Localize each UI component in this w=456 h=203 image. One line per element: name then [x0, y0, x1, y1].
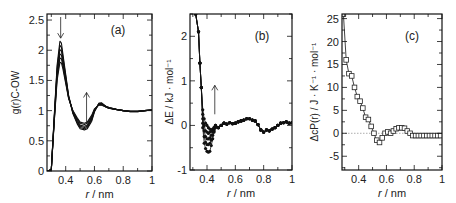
data-line [47, 54, 152, 171]
data-point [201, 126, 204, 129]
data-point [366, 117, 371, 122]
y-tick-label: 25 [327, 13, 339, 25]
x-tick-label: 1 [149, 174, 155, 186]
y-tick-label: 2.5 [29, 14, 44, 26]
plot-area [341, 12, 443, 145]
y-tick-label: -5 [329, 150, 339, 162]
data-point [214, 126, 217, 129]
data-point [222, 122, 225, 125]
y-axis-label: ΔcP(r) / J · K⁻¹ · mol⁻¹ [309, 42, 320, 142]
y-tick-label: 1 [38, 105, 44, 117]
data-point [239, 119, 242, 122]
y-tick-label: 2 [38, 44, 44, 56]
x-axis-label: r / nm [227, 187, 255, 199]
y-axis-label: g(r)C-OW [10, 70, 21, 114]
y-tick-label: 1 [181, 75, 187, 87]
data-point [358, 99, 363, 104]
data-point [380, 136, 385, 141]
data-point [377, 140, 382, 145]
data-point [355, 94, 360, 99]
panel-b-chart: 0.40.60.81-1012r / nmΔE / kJ · mol⁻¹(b) [164, 12, 295, 199]
y-tick-label: -1 [177, 164, 187, 176]
data-point [237, 120, 240, 123]
data-point [200, 86, 203, 89]
panel-label: (c) [405, 29, 419, 43]
data-point [212, 131, 215, 134]
panel-a-chart: 0.40.60.8100.511.522.5r / nmg(r)C-OW(a) [10, 14, 155, 200]
x-tick-label: 0.8 [116, 174, 131, 186]
data-point [248, 117, 251, 120]
data-point [210, 144, 213, 147]
panel-label: (b) [255, 29, 270, 43]
data-point [369, 124, 374, 129]
data-point [259, 128, 262, 131]
data-point [361, 106, 366, 111]
x-tick-label: 0.4 [58, 174, 73, 186]
data-point [262, 131, 265, 134]
data-point [273, 126, 276, 129]
y-tick-label: 0.5 [29, 135, 44, 147]
data-line [196, 14, 292, 134]
panel-c-chart: 0.40.60.81-50510152025r / nmΔcP(r) / J ·… [309, 12, 445, 199]
x-tick-label: 0.4 [199, 173, 214, 185]
data-point [372, 131, 377, 136]
data-line [47, 62, 152, 171]
data-point [203, 135, 206, 138]
y-tick-label: 20 [327, 36, 339, 48]
x-tick-label: 0.4 [351, 173, 366, 185]
data-point [211, 137, 214, 140]
data-line [196, 14, 292, 132]
x-tick-label: 0.6 [379, 173, 394, 185]
data-point [268, 129, 271, 132]
data-point [197, 30, 200, 33]
x-tick-label: 0.8 [256, 173, 271, 185]
x-tick-label: 0.6 [87, 174, 102, 186]
y-tick-label: 10 [327, 81, 339, 93]
data-line [343, 14, 440, 143]
data-point [279, 122, 282, 125]
data-point [231, 122, 234, 125]
data-point [220, 124, 223, 127]
data-point [288, 122, 291, 125]
plot-frame [47, 14, 152, 171]
data-point [256, 123, 259, 126]
x-tick-label: 1 [289, 173, 295, 185]
y-tick-label: 1.5 [29, 74, 44, 86]
plot-area [194, 12, 294, 153]
data-point [349, 74, 354, 79]
data-point [234, 122, 237, 125]
data-point [282, 121, 285, 124]
data-point [208, 150, 211, 153]
data-point [217, 126, 220, 129]
panel-label: (a) [111, 23, 126, 37]
data-point [344, 58, 349, 63]
figure: 0.40.60.8100.511.522.5r / nmg(r)C-OW(a) … [0, 0, 456, 203]
x-axis-label: r / nm [378, 187, 406, 199]
data-point [285, 120, 288, 123]
data-point [254, 119, 257, 122]
y-tick-label: 2 [181, 30, 187, 42]
data-point [276, 124, 279, 127]
y-tick-label: 0 [333, 127, 339, 139]
data-point [242, 118, 245, 121]
data-line [47, 58, 152, 171]
plot-frame [342, 14, 442, 170]
y-tick-label: 0 [38, 165, 44, 177]
x-tick-label: 0.6 [228, 173, 243, 185]
data-point [352, 85, 357, 90]
x-axis-label: r / nm [85, 188, 113, 200]
x-tick-label: 1 [439, 173, 445, 185]
y-axis-label: ΔE / kJ · mol⁻¹ [164, 59, 175, 125]
data-point [251, 118, 254, 121]
data-point [198, 61, 201, 64]
data-point [265, 128, 268, 131]
y-tick-label: 15 [327, 58, 339, 70]
data-point [225, 122, 228, 125]
data-point [245, 117, 248, 120]
x-tick-label: 0.8 [407, 173, 422, 185]
data-point [228, 121, 231, 124]
plot-area [47, 41, 152, 171]
y-tick-label: 0 [181, 119, 187, 131]
y-tick-label: 5 [333, 104, 339, 116]
data-point [203, 142, 206, 145]
